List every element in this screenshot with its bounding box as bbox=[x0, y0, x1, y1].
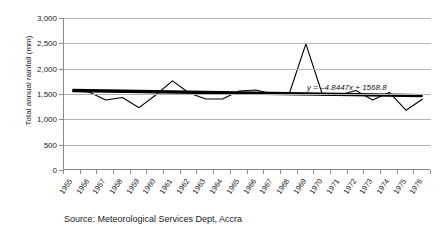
y-axis-tick bbox=[59, 119, 64, 120]
gridline bbox=[64, 69, 431, 70]
x-axis-tick bbox=[63, 170, 64, 174]
y-axis-tick bbox=[59, 145, 64, 146]
trendline-equation-label: y = –4.8447x + 1568.8 bbox=[307, 83, 387, 92]
x-axis-tick bbox=[163, 170, 164, 174]
y-axis-tick bbox=[59, 69, 64, 70]
x-axis-tick bbox=[363, 170, 364, 174]
gridline bbox=[64, 18, 431, 19]
rainfall-chart-figure: Total annual rainfall (mm) 3,0002,5002,0… bbox=[0, 0, 444, 238]
x-axis-tick bbox=[313, 170, 314, 174]
x-axis-tick bbox=[180, 170, 181, 174]
x-axis-tick bbox=[130, 170, 131, 174]
x-axis-tick bbox=[146, 170, 147, 174]
gridline bbox=[64, 119, 431, 120]
gridline bbox=[64, 43, 431, 44]
x-axis-tick bbox=[347, 170, 348, 174]
x-axis-tick bbox=[413, 170, 414, 174]
x-axis-tick bbox=[80, 170, 81, 174]
y-axis-tick-label: 3,000 bbox=[37, 14, 57, 23]
y-axis-tick bbox=[59, 94, 64, 95]
y-axis-tick bbox=[59, 43, 64, 44]
x-axis-tick bbox=[247, 170, 248, 174]
y-axis-tick-label: 1,500 bbox=[37, 90, 57, 99]
source-caption: Source: Meteorological Services Dept, Ac… bbox=[64, 214, 242, 224]
x-axis-tick bbox=[397, 170, 398, 174]
x-axis-tick bbox=[263, 170, 264, 174]
y-axis-tick-label: 2,000 bbox=[37, 64, 57, 73]
y-axis-title: Total annual rainfall (mm) bbox=[24, 1, 33, 161]
x-axis-tick bbox=[280, 170, 281, 174]
x-axis-tick bbox=[297, 170, 298, 174]
y-axis-tick-label: 0 bbox=[53, 166, 57, 175]
x-axis-tick bbox=[113, 170, 114, 174]
gridline bbox=[64, 94, 431, 95]
x-axis-tick bbox=[213, 170, 214, 174]
x-axis-tick bbox=[430, 170, 431, 174]
x-axis-tick bbox=[196, 170, 197, 174]
plot-area: 3,0002,5002,0001,5001,0005000 bbox=[63, 18, 430, 170]
y-axis-tick-label: 1,000 bbox=[37, 115, 57, 124]
x-axis-tick bbox=[96, 170, 97, 174]
y-axis-tick-label: 500 bbox=[44, 140, 57, 149]
gridline bbox=[64, 145, 431, 146]
x-axis-tick bbox=[380, 170, 381, 174]
x-axis-tick bbox=[230, 170, 231, 174]
y-axis-tick bbox=[59, 18, 64, 19]
x-axis-tick bbox=[330, 170, 331, 174]
y-axis-tick-label: 2,500 bbox=[37, 39, 57, 48]
